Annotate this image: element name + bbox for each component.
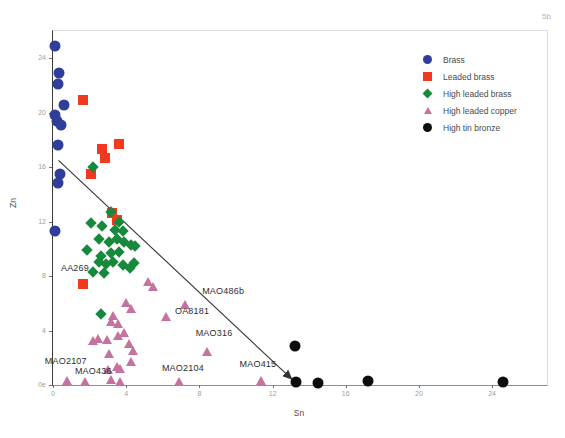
legend-item-brass: Brass [421,51,517,68]
legend-item-high-tin-bronze: High tin bronze [421,119,517,136]
point-high-leaded-brass [97,220,108,231]
x-tick-label: 24 [482,390,502,397]
point-brass [54,68,65,79]
point-high-leaded-copper [126,357,136,366]
x-tick-mark [199,385,200,388]
brass-marker-icon [421,55,434,64]
x-tick-label: 12 [263,390,283,397]
point-high-leaded-copper [128,346,138,355]
point-high-leaded-copper [174,377,184,386]
point-high-leaded-copper [62,376,72,385]
legend-label: High tin bronze [443,123,500,133]
annotation-label: AA269 [61,263,89,273]
point-high-leaded-copper [256,376,266,385]
x-axis-title: Sn [52,408,546,418]
point-brass [56,119,67,130]
point-high-leaded-brass [95,309,106,320]
annotation-label: MAO316 [196,328,233,338]
y-tick-label: 12 [20,218,46,225]
y-tick-mark [49,222,52,223]
point-high-leaded-brass [93,234,104,245]
y-tick-label: 16 [20,163,46,170]
point-high-leaded-copper [80,377,90,386]
point-high-tin-bronze [498,377,509,388]
point-high-leaded-copper [113,319,123,328]
x-tick-mark [126,385,127,388]
point-high-tin-bronze [289,340,300,351]
x-tick-label: 20 [409,390,429,397]
high-leaded-copper-marker-icon [421,107,434,114]
scatter-plot-figure: 5b Zn BrassLeaded brassHigh leaded brass… [0,0,565,438]
y-tick-mark [49,276,52,277]
legend-item-high-leaded-brass: High leaded brass [421,85,517,102]
y-tick-mark [49,167,52,168]
y-tick-label: 20 [20,109,46,116]
high-tin-bronze-marker-icon [421,123,434,132]
x-tick-label: 4 [116,390,136,397]
point-leaded-brass [100,153,110,163]
point-high-leaded-copper [126,304,136,313]
x-tick-label: 0 [43,390,63,397]
x-tick-mark [492,385,493,388]
leaded-brass-marker-icon [421,72,434,81]
point-high-leaded-brass [99,268,110,279]
legend-item-leaded-brass: Leaded brass [421,68,517,85]
point-high-leaded-brass [88,266,99,277]
point-leaded-brass [78,279,88,289]
y-tick-mark [49,331,52,332]
y-tick-label: 24 [20,54,46,61]
point-brass [49,226,60,237]
legend-label: High leaded brass [443,89,512,99]
x-tick-mark [419,385,420,388]
x-tick-mark [346,385,347,388]
point-brass [53,178,64,189]
point-high-leaded-copper [115,364,125,373]
point-high-leaded-copper [115,377,125,386]
point-brass [49,40,60,51]
point-high-leaded-copper [161,312,171,321]
annotation-label: MAO486b [202,286,244,296]
annotation-label: MAO2104 [162,363,204,373]
x-tick-mark [53,385,54,388]
x-tick-label: 8 [189,390,209,397]
point-high-leaded-copper [102,335,112,344]
y-tick-label: 8 [20,272,46,279]
y-tick-mark [49,58,52,59]
plot-area: BrassLeaded brassHigh leaded brassHigh l… [52,30,548,386]
legend-label: High leaded copper [443,106,517,116]
point-high-leaded-copper [202,347,212,356]
y-tick-mark [49,385,52,386]
point-high-tin-bronze [362,375,373,386]
point-high-tin-bronze [291,376,302,387]
y-tick-label: 0e [20,381,46,388]
point-high-leaded-brass [113,246,124,257]
point-high-leaded-copper [104,349,114,358]
legend-label: Brass [443,55,465,65]
legend-label: Leaded brass [443,72,495,82]
annotation-label: MAO2107 [45,356,87,366]
high-leaded-brass-marker-icon [421,90,434,97]
figure-number-label: 5b [542,12,551,21]
y-axis-title: Zn [8,198,18,208]
point-high-leaded-brass [86,217,97,228]
annotation-label: OA8181 [175,306,209,316]
legend: BrassLeaded brassHigh leaded brassHigh l… [421,51,517,136]
point-high-leaded-copper [113,331,123,340]
y-tick-label: 4 [20,327,46,334]
annotation-label: MAO436 [75,366,112,376]
point-brass [58,99,69,110]
legend-item-high-leaded-copper: High leaded copper [421,102,517,119]
point-brass [53,79,64,90]
point-leaded-brass [114,139,124,149]
point-high-leaded-brass [81,245,92,256]
point-high-tin-bronze [313,377,324,388]
x-tick-mark [273,385,274,388]
point-brass [52,140,63,151]
point-high-leaded-copper [148,282,158,291]
annotation-label: MAO415 [240,359,277,369]
x-tick-label: 16 [336,390,356,397]
point-high-leaded-copper [88,336,98,345]
point-leaded-brass [78,95,88,105]
